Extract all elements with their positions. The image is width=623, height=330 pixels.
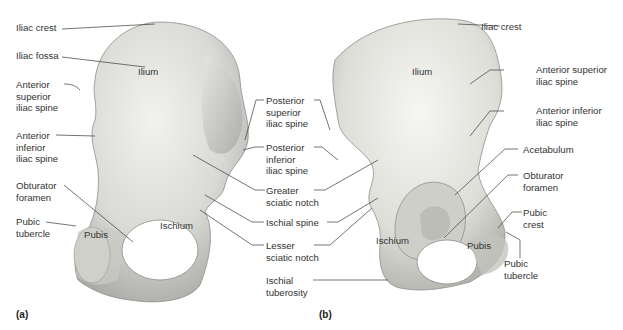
region-label-pubis-a: Pubis xyxy=(84,229,108,240)
label-ischial-tuberosity: Ischial tuberosity xyxy=(266,275,308,298)
label-anterior-inferior-iliac-spine-a: Anterior inferior iliac spine xyxy=(16,130,58,165)
region-label-pubis-b: Pubis xyxy=(467,240,491,251)
label-posterior-inferior-iliac-spine: Posterior inferior iliac spine xyxy=(266,142,308,177)
label-iliac-crest-a: Iliac crest xyxy=(16,22,57,34)
label-anterior-superior-iliac-spine-b: Anterior superior iliac spine xyxy=(536,64,607,87)
region-label-ilium-a: Ilium xyxy=(138,66,158,77)
label-anterior-inferior-iliac-spine-b: Anterior inferior iliac spine xyxy=(536,105,602,128)
label-obturator-foramen-a: Obturator foramen xyxy=(16,180,57,203)
label-posterior-superior-iliac-spine: Posterior superior iliac spine xyxy=(266,95,308,130)
panel-label-b: (b) xyxy=(319,309,332,320)
label-pubic-crest: Pubic crest xyxy=(523,207,547,230)
label-ischial-spine: Ischial spine xyxy=(266,217,319,229)
label-iliac-fossa: Iliac fossa xyxy=(16,50,59,62)
hip-bone-medial-view xyxy=(74,22,248,302)
label-lesser-sciatic-notch: Lesser sciatic notch xyxy=(266,240,319,263)
label-acetabulum: Acetabulum xyxy=(523,144,574,156)
label-obturator-foramen-b: Obturator foramen xyxy=(523,170,564,193)
region-label-ilium-b: Ilium xyxy=(412,66,432,77)
label-pubic-tubercle-b: Pubic tubercle xyxy=(504,258,538,281)
label-pubic-tubercle-a: Pubic tubercle xyxy=(16,216,50,239)
region-label-ischium-b: Ischium xyxy=(376,235,409,246)
region-label-ischium-a: Ischium xyxy=(160,220,193,231)
hip-bone-diagram: Ilium Pubis Ischium Iliac crest Iliac fo… xyxy=(0,0,623,330)
label-greater-sciatic-notch: Greater sciatic notch xyxy=(266,185,319,208)
panel-label-a: (a) xyxy=(16,309,28,320)
label-anterior-superior-iliac-spine-a: Anterior superior iliac spine xyxy=(16,79,58,114)
label-iliac-crest-b: Iliac crest xyxy=(481,21,522,33)
